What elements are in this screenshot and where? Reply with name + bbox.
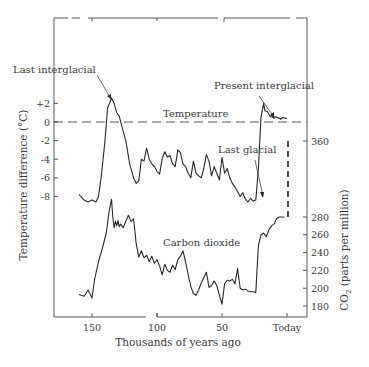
co2-series-line bbox=[79, 199, 284, 304]
arrowhead-icon bbox=[107, 94, 111, 99]
temp-tick-label: -2 bbox=[41, 135, 50, 146]
x-tick-label: 150 bbox=[83, 322, 101, 333]
co2-tick-label: 360 bbox=[311, 136, 329, 147]
chart-frame bbox=[54, 18, 307, 317]
x-tick-label: 50 bbox=[216, 322, 228, 333]
x-axis-title: Thousands of years ago bbox=[115, 336, 241, 348]
annotation-last-interglacial: Last interglacial bbox=[13, 64, 96, 75]
annotation-last-glacial: Last glacial bbox=[218, 144, 276, 155]
climate-chart: 15010050Today +20-2-4-6-8 36028026024022… bbox=[0, 0, 369, 367]
series-label-temperature: Temperature bbox=[163, 108, 229, 119]
co2-label-part: CO bbox=[338, 294, 350, 311]
annotation-present-interglacial: Present interglacial bbox=[214, 80, 314, 91]
co2-tick-label: 180 bbox=[311, 301, 329, 312]
x-axis-ticks: 15010050Today bbox=[83, 313, 302, 333]
x-tick-label: 100 bbox=[148, 322, 166, 333]
co2-tick-label: 240 bbox=[311, 247, 329, 258]
arrowhead-icon bbox=[260, 192, 264, 198]
temp-tick-label: -4 bbox=[41, 154, 50, 165]
series-label-carbon-dioxide: Carbon dioxide bbox=[163, 237, 240, 248]
temp-tick-label: 0 bbox=[44, 117, 50, 128]
co2-tick-label: 220 bbox=[311, 265, 329, 276]
annotation-arrows bbox=[97, 75, 274, 198]
co2-label-unit: (parts per million) bbox=[338, 189, 350, 289]
temp-tick-label: -6 bbox=[41, 172, 50, 183]
y-axis-title-temperature: Temperature difference (°C) bbox=[17, 110, 29, 261]
x-tick-label: Today bbox=[273, 322, 302, 333]
co2-tick-label: 280 bbox=[311, 212, 329, 223]
co2-tick-label: 200 bbox=[311, 283, 329, 294]
temp-tick-label: -8 bbox=[41, 191, 50, 202]
y-axis-title-co2: CO2 (parts per million) bbox=[338, 189, 353, 310]
temperature-axis-ticks: +20-2-4-6-8 bbox=[36, 98, 58, 202]
temp-tick-label: +2 bbox=[36, 98, 50, 109]
co2-tick-label: 260 bbox=[311, 229, 329, 240]
